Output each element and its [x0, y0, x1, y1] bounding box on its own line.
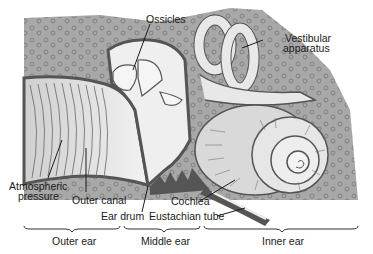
region-label-outer-ear: Outer ear: [52, 236, 96, 247]
region-label-middle-ear: Middle ear: [141, 236, 190, 247]
label-ossicles: Ossicles: [146, 14, 186, 25]
label-vestibular-line2: apparatus: [283, 43, 330, 54]
label-atmospheric-line2: pressure: [18, 191, 59, 202]
label-outer-canal: Outer canal: [72, 195, 126, 206]
label-ear-drum: Ear drum: [101, 211, 144, 222]
label-cochlea: Cochlea: [171, 196, 210, 207]
region-braces: [24, 226, 358, 232]
label-eustachian-tube: Eustachian tube: [149, 211, 224, 222]
region-label-inner-ear: Inner ear: [262, 236, 304, 247]
ear-diagram: Ossicles Vestibular apparatus Atmospheri…: [0, 0, 373, 254]
